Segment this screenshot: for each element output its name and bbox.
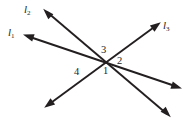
line-label-l1-subscript: 1 [11, 32, 15, 40]
line-l2-arrowhead-end [161, 107, 171, 117]
angle-number-4: 4 [74, 67, 79, 78]
line-l1-arrowhead-start [23, 34, 35, 41]
line-l3-arrowhead-end [150, 22, 161, 32]
line-l2-arrowhead-start [43, 9, 53, 19]
line-label-l2-subscript: 2 [27, 9, 31, 17]
line-label-l3-subscript: 3 [166, 25, 170, 33]
angle-number-2: 2 [117, 56, 122, 67]
line-label-l3: l3 [163, 20, 170, 31]
line-label-l1: l1 [8, 27, 15, 38]
line-l2 [47, 12, 167, 114]
line-l3-arrowhead-start [44, 98, 55, 108]
angle-number-3: 3 [101, 45, 106, 56]
line-label-l2: l2 [24, 4, 31, 15]
geometry-figure: l2 l1 l3 3 2 1 4 [0, 0, 191, 124]
line-l1-group [23, 34, 182, 89]
line-l1-arrowhead-end [170, 82, 182, 89]
angle-number-1: 1 [103, 66, 108, 77]
